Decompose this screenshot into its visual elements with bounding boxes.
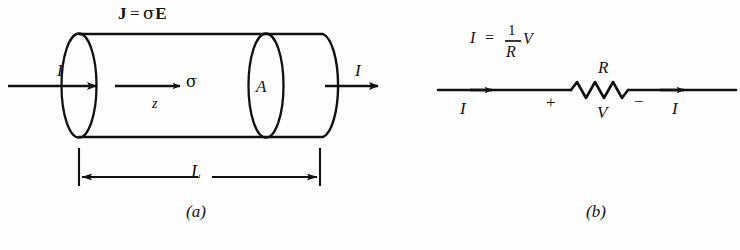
current-density-relation-label: J=σE <box>118 5 167 22</box>
length-label: L <box>191 163 201 181</box>
circuit-current-out-label: I <box>672 100 678 117</box>
current-out-label: I <box>355 62 361 79</box>
panel-b-caption: (b) <box>586 203 606 220</box>
sigma-symbol: σ <box>143 3 155 23</box>
conductivity-label: σ <box>186 74 197 90</box>
bold-e-symbol: E <box>155 4 167 23</box>
z-axis-label: z <box>152 97 157 111</box>
equation-denominator-label: R <box>506 44 516 60</box>
panel-a-caption: (a) <box>186 203 206 220</box>
figure-linework <box>0 0 740 250</box>
equals-symbol: = <box>130 4 140 23</box>
equation-lhs-label: I <box>470 30 475 46</box>
equation-numerator-label: 1 <box>508 23 516 38</box>
bold-j-symbol: J <box>118 4 127 23</box>
resistor-symbol <box>571 82 628 98</box>
current-in-label: I <box>57 62 63 79</box>
polarity-positive-label: + <box>546 94 556 111</box>
voltage-label: V <box>597 104 607 121</box>
resistance-label: R <box>598 59 608 76</box>
equation-rhs-label: V <box>523 31 533 47</box>
equation-equals-label: = <box>485 30 494 46</box>
cross-section-area-label: A <box>256 78 266 95</box>
circuit-current-in-label: I <box>460 100 466 117</box>
polarity-negative-label: − <box>634 93 644 110</box>
conductor-cylinder <box>62 34 339 138</box>
figure-root: J=σE I I σ z A L (a) I = 1 R V R V + − I… <box>0 0 740 250</box>
